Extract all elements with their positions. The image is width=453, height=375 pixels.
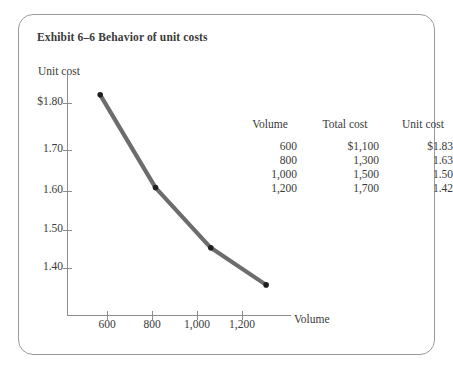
cell-unit-cost: 1.42 (379, 181, 453, 195)
table-header-unit-cost: Unit cost (379, 118, 453, 139)
cell-total-cost: 1,700 (297, 181, 379, 195)
data-point-1 (153, 185, 159, 191)
table-header-row: Volume Total cost Unit cost (243, 118, 453, 139)
data-point-3 (263, 282, 269, 288)
cell-volume: 800 (243, 153, 297, 167)
cell-total-cost: $1,100 (297, 139, 379, 153)
cell-volume: 600 (243, 139, 297, 153)
cell-volume: 1,200 (243, 181, 297, 195)
cell-unit-cost: 1.50 (379, 167, 453, 181)
table-header-volume: Volume (243, 118, 297, 139)
cell-unit-cost: $1.83 (379, 139, 453, 153)
cell-total-cost: 1,500 (297, 167, 379, 181)
unit-cost-line (100, 95, 266, 285)
cost-data-table: Volume Total cost Unit cost 600 $1,100 $… (243, 118, 453, 195)
table-row: 800 1,300 1.63 (243, 153, 453, 167)
cell-unit-cost: 1.63 (379, 153, 453, 167)
table-header-total-cost: Total cost (297, 118, 379, 139)
cell-volume: 1,000 (243, 167, 297, 181)
table-row: 1,000 1,500 1.50 (243, 167, 453, 181)
data-point-2 (208, 245, 214, 251)
cell-total-cost: 1,300 (297, 153, 379, 167)
table-row: 1,200 1,700 1.42 (243, 181, 453, 195)
data-point-0 (97, 92, 103, 98)
table-row: 600 $1,100 $1.83 (243, 139, 453, 153)
